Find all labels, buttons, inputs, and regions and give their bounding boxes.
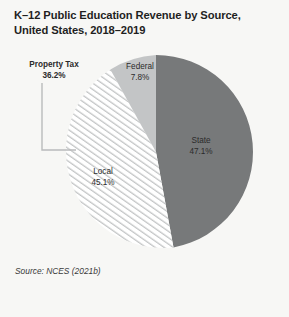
chart-page: K–12 Public Education Revenue by Source,… <box>0 0 289 317</box>
pie-label-local-value: 45.1% <box>79 178 127 189</box>
property-tax-annotation-value: 36.2% <box>8 71 100 82</box>
property-tax-annotation: Property Tax 36.2% <box>8 60 100 81</box>
source-note: Source: NCES (2021b) <box>15 266 101 276</box>
pie-label-local-name: Local <box>79 167 127 178</box>
pie-label-federal-name: Federal <box>113 62 167 73</box>
property-tax-annotation-label: Property Tax <box>8 60 100 71</box>
pie-label-state: State 47.1% <box>175 136 227 157</box>
pie-label-federal: Federal 7.8% <box>113 62 167 83</box>
pie-label-federal-value: 7.8% <box>113 73 167 84</box>
pie-label-local: Local 45.1% <box>79 167 127 188</box>
pie-label-state-name: State <box>175 136 227 147</box>
pie-label-state-value: 47.1% <box>175 147 227 158</box>
